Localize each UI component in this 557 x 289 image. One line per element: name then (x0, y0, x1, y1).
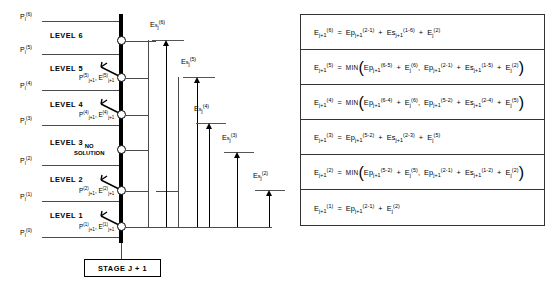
equation-row-5: Ej+1(5)=MIN(Epj+1(6-5)+Ej(6),Epj+1(2-1)+… (301, 50, 544, 85)
no-solution-line-2: SOLUTION (74, 150, 104, 156)
no-solution-label: NO SOLUTION (74, 143, 104, 157)
pressure-label-1: Pl(1) (20, 193, 32, 200)
equation-panel: Ej+1(6)=Epj+1(2-1)+Esj+1(1-6)+Ej(2) Ej+1… (300, 14, 545, 226)
node-annot-4: P(4)j+1, E(4)j+1 (79, 111, 114, 118)
level-label-6: LEVEL 6 (50, 31, 83, 40)
equation-row-4: Ej+1(4)=MIN(Epj+1(6-4)+Ej(6),Epj+1(5-2)+… (301, 85, 544, 120)
pressure-rule-2 (42, 165, 121, 166)
es-arrow-4 (209, 128, 210, 227)
rail-a (148, 40, 149, 227)
equation-2: Ej+1(2)=MIN(Epj+1(5-2)+Ej(5),Epj+1(2-1)+… (301, 168, 524, 177)
equation-row-2: Ej+1(2)=MIN(Epj+1(5-2)+Ej(5),Epj+1(2-1)+… (301, 155, 544, 190)
pressure-label-5: Pl(5) (20, 46, 32, 53)
energy-level-diagram: Esj(6) Esj(5) Esj(4) Esj(3) Esj(2) (0, 0, 292, 289)
es-label-6: Esj(6) (150, 20, 165, 29)
es-arrowhead-3 (234, 152, 240, 158)
equation-row-1: Ej+1(1)=Epj+1(2-1)+Ej(2) (301, 190, 544, 227)
figure-canvas: Esj(6) Esj(5) Esj(4) Esj(3) Esj(2) (0, 0, 557, 289)
pressure-label-0: Pl(0) (20, 229, 32, 236)
equation-1: Ej+1(1)=Epj+1(2-1)+Ej(2) (301, 204, 400, 213)
pressure-rule-6 (42, 21, 121, 22)
node-annot-2: P(2)j+1, E(2)j+1 (79, 187, 114, 194)
stage-box: STAGE J + 1 (84, 259, 161, 277)
equation-6: Ej+1(6)=Epj+1(2-1)+Esj+1(1-6)+Ej(2) (301, 28, 440, 37)
node-lead-2 (126, 191, 148, 192)
node-annot-5: P(5)j+1, E(5)j+1 (79, 74, 114, 81)
pressure-rule-4 (42, 90, 121, 91)
es-label-3: Esj(3) (222, 133, 237, 142)
es-arrowhead-5 (194, 77, 200, 83)
node-level-2[interactable] (117, 186, 126, 195)
es-label-4: Esj(4) (194, 104, 209, 113)
equation-row-3: Ej+1(3)=Epj+1(5-2)+Esj+1(2-3)+Ej(5) (301, 120, 544, 155)
pressure-label-2: Pl(2) (20, 157, 32, 164)
stage-box-stem (121, 243, 122, 259)
pressure-rule-3 (42, 125, 121, 126)
level-label-4: LEVEL 4 (50, 100, 83, 109)
es-arrow-2 (269, 195, 270, 227)
pressure-label-6: Pl(6) (20, 13, 32, 20)
node-level-6[interactable] (117, 36, 126, 45)
equation-5: Ej+1(5)=MIN(Epj+1(6-5)+Ej(6),Epj+1(2-1)+… (301, 63, 524, 72)
node-lead-2b (156, 191, 178, 192)
es-arrow-3 (237, 157, 238, 227)
es-arrowhead-6 (163, 40, 169, 46)
equation-4: Ej+1(4)=MIN(Epj+1(6-4)+Ej(6),Epj+1(5-2)+… (301, 98, 524, 107)
pressure-label-4: Pl(4) (20, 82, 32, 89)
level-label-2: LEVEL 2 (50, 175, 83, 184)
level-2-text: LEVEL 2 (50, 175, 83, 184)
es-arrowhead-4 (206, 123, 212, 129)
node-lead-4 (126, 115, 148, 116)
equation-row-6: Ej+1(6)=Epj+1(2-1)+Esj+1(1-6)+Ej(2) (301, 15, 544, 50)
no-solution-line-1: NO (85, 143, 94, 149)
level-label-5: LEVEL 5 (50, 64, 83, 73)
node-level-5[interactable] (117, 73, 126, 82)
rail-b (178, 77, 179, 227)
es-arrowhead-2 (266, 190, 272, 196)
level-6-text: LEVEL 6 (50, 31, 83, 40)
es-label-5: Esj(5) (181, 57, 196, 66)
pressure-rule-1 (42, 201, 121, 202)
node-annot-1: P(1)j+1, E(1)j+1 (79, 223, 114, 230)
pressure-label-3: Pl(3) (20, 117, 32, 124)
es-label-2: Esj(2) (253, 171, 268, 180)
pressure-rule-0 (42, 237, 121, 238)
stage-box-label: STAGE J + 1 (98, 264, 147, 273)
es-arrow-6 (166, 45, 167, 227)
level-label-1: LEVEL 1 (50, 211, 83, 220)
node-lead-3 (126, 150, 148, 151)
node-level-1[interactable] (117, 222, 126, 231)
pressure-rule-5 (42, 54, 121, 55)
node-level-3[interactable] (117, 145, 126, 154)
node-lead-5 (126, 78, 148, 79)
level-5-text: LEVEL 5 (50, 64, 83, 73)
equation-3: Ej+1(3)=Epj+1(5-2)+Esj+1(2-3)+Ej(5) (301, 133, 440, 142)
level-1-text: LEVEL 1 (50, 211, 83, 220)
level-4-text: LEVEL 4 (50, 100, 83, 109)
node-level-4[interactable] (117, 110, 126, 119)
